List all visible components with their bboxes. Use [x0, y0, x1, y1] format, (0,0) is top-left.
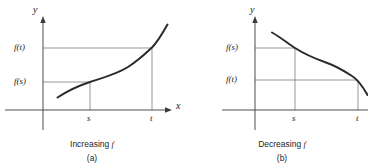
- panel-b-y-axis-label: y: [250, 5, 254, 15]
- panel-a-caption: Increasing f: [0, 140, 184, 149]
- panel-a-caption-text: Increasing: [70, 139, 109, 149]
- panel-a-y-axis-arrowhead: [40, 16, 45, 23]
- panel-a-value-label-ft: f(t): [14, 43, 25, 52]
- panel-b-value-label-fs: f(s): [226, 43, 238, 52]
- panel-b-tick-label-s: s: [292, 114, 296, 123]
- panel-a-caption-symbol: f: [112, 139, 114, 149]
- panel-b-value-label-ft: f(t): [226, 75, 237, 84]
- panel-a-y-axis-label: y: [33, 5, 37, 15]
- panel-b-caption: Decreasing f: [212, 140, 352, 149]
- panel-a-x-axis-label: x: [176, 101, 180, 111]
- panel-a-tick-label-s: s: [87, 114, 91, 123]
- panel-a-tick-label-t: t: [150, 114, 153, 123]
- panel-a-value-label-fs: f(s): [14, 77, 26, 86]
- panel-b-caption-text: Decreasing: [258, 139, 301, 149]
- panel-b-y-axis-arrowhead: [252, 16, 257, 23]
- panel-a-caption-index: (a): [0, 154, 184, 163]
- figure-root: y x f(t) f(s) s t Increasing f (a) y f(s…: [0, 0, 368, 168]
- panel-b-caption-symbol: f: [304, 139, 306, 149]
- panel-a-x-axis-arrowhead: [165, 107, 172, 112]
- panel-b-caption-index: (b): [212, 154, 352, 163]
- panel-b-decreasing-curve: [272, 33, 368, 96]
- panel-b-tick-label-t: t: [356, 114, 359, 123]
- panel-a-increasing-curve: [58, 25, 168, 98]
